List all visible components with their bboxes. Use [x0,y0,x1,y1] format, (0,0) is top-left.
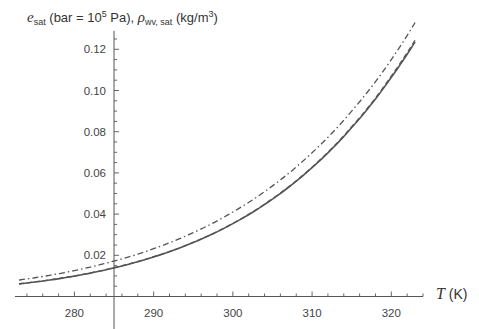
curves [19,23,415,284]
y-axis-label: esat (bar = 105 Pa), ρwv, sat (kg/m3) [27,9,218,27]
y-label-part3: (kg/m [172,10,208,25]
curve-dashed [19,40,415,284]
y-tick-label: 0.04 [84,208,107,220]
x-axis-label: T (K) [436,285,467,303]
y-label-sub: sat [34,17,46,27]
y-tick-label: 0.02 [84,249,106,261]
curve-solid [19,42,415,284]
y-label-part1: (bar = 10 [46,10,102,25]
y-label-rho-sub: wv, sat [145,17,172,27]
x-tick-label: 320 [382,307,401,319]
x-tick-label: 280 [65,307,84,319]
x-tick-label: 310 [302,307,321,319]
x-label-var: T [436,285,445,302]
y-tick-label: 0.10 [84,85,106,97]
x-label-unit: (K) [445,286,468,302]
chart-plot: 2802903003103200.020.040.060.080.100.12 [0,0,479,329]
y-label-part4: ) [213,10,217,25]
y-tick-label: 0.06 [84,167,106,179]
curve-dash-dot [19,23,415,281]
y-label-rho: ρ [138,9,145,25]
x-tick-label: 290 [144,307,163,319]
axes: 2802903003103200.020.040.060.080.100.12 [15,31,423,329]
y-tick-label: 0.12 [84,43,106,55]
x-tick-label: 300 [223,307,242,319]
y-label-var: e [27,9,34,25]
y-tick-label: 0.08 [84,126,106,138]
y-label-part2: Pa), [107,10,138,25]
